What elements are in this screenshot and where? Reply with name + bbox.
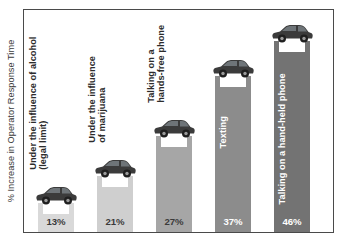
car-icon <box>270 23 314 44</box>
bar-texting: 37% <box>215 76 251 232</box>
bar-caption-alcohol: Under the influence of alcohol (legal li… <box>28 37 49 170</box>
bar-alcohol: 13% <box>38 203 74 232</box>
bar-value-label: 13% <box>38 216 74 227</box>
bar-value-label: 37% <box>215 216 251 227</box>
bar-caption-texting: Texting <box>218 116 228 148</box>
car-icon <box>152 118 196 139</box>
bar-caption-line1: Talking on a hand-held phone <box>277 73 287 204</box>
bar-caption-line1: Talking on a <box>146 25 156 103</box>
y-axis-title-label: % Increase in Operator Response Time <box>6 40 16 203</box>
bar-caption-line1: Under the influence <box>87 56 97 143</box>
bar-caption-hand-held-phone: Talking on a hand-held phone <box>277 73 287 204</box>
bar-caption-line1: Texting <box>218 116 228 148</box>
y-axis-title: % Increase in Operator Response Time <box>0 0 22 242</box>
bar-caption-line2: hands-free phone <box>157 25 167 103</box>
bar-marijuana: 21% <box>97 176 133 232</box>
bar-hands-free-phone: 27% <box>156 136 192 232</box>
bar-value-label: 21% <box>97 216 133 227</box>
bar-caption-line2: (legal limit) <box>39 37 49 170</box>
bar-chart: % Increase in Operator Response Time 13% <box>0 0 338 242</box>
bar-caption-line2: of marijuana <box>98 56 108 143</box>
bar-caption-line1: Under the influence of alcohol <box>28 37 38 170</box>
car-icon <box>211 58 255 79</box>
bar-value-label: 27% <box>156 216 192 227</box>
car-icon <box>93 158 137 179</box>
car-icon <box>34 185 78 206</box>
bar-caption-hands-free-phone: Talking on a hands-free phone <box>146 25 167 103</box>
bar-value-label: 46% <box>274 216 310 227</box>
plot-area: 13% Under the influence of alcohol (lega… <box>23 9 334 233</box>
bar-caption-marijuana: Under the influence of marijuana <box>87 56 108 143</box>
